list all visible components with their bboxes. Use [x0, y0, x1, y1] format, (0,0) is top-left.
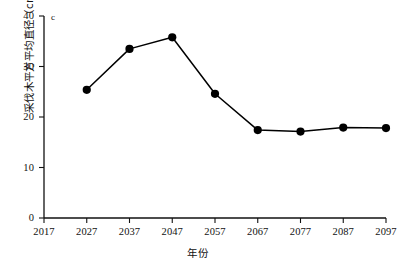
y-axis-ticks	[39, 16, 44, 218]
x-axis-label: 年份	[0, 245, 396, 260]
data-point-2097	[382, 124, 390, 132]
y-tick-label-0: 0	[8, 213, 34, 224]
data-point-2077	[296, 128, 304, 136]
x-tick-label-2097: 2097	[364, 227, 401, 238]
data-point-2027	[83, 86, 91, 94]
x-axis-ticks	[44, 218, 386, 223]
x-tick-label-2057: 2057	[193, 227, 237, 238]
data-point-2057	[211, 90, 219, 98]
data-point-2067	[254, 126, 262, 134]
x-tick-label-2027: 2027	[65, 227, 109, 238]
x-tick-label-2017: 2017	[22, 227, 66, 238]
data-markers	[83, 33, 390, 136]
x-tick-label-2047: 2047	[150, 227, 194, 238]
panel-label: c	[51, 12, 55, 22]
x-tick-label-2077: 2077	[279, 227, 323, 238]
data-point-2047	[168, 33, 176, 41]
x-tick-label-2037: 2037	[108, 227, 152, 238]
y-tick-label-10: 10	[8, 163, 34, 174]
x-tick-label-2067: 2067	[236, 227, 280, 238]
y-axis-label: 采伐木平方平均直径（cm）	[21, 0, 36, 138]
data-point-2087	[339, 124, 347, 132]
data-point-2037	[125, 45, 133, 53]
x-tick-label-2087: 2087	[321, 227, 365, 238]
